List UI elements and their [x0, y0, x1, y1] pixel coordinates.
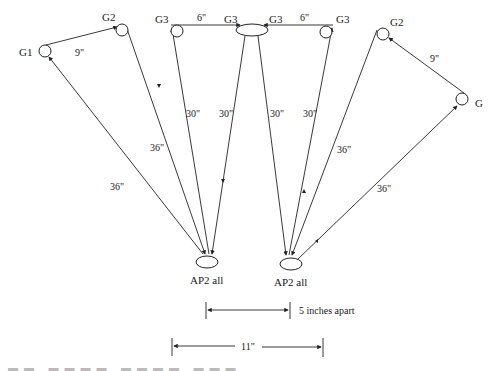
edge-center-ap2-right — [258, 36, 286, 255]
edge-ap2-left-g3-far-left — [172, 28, 209, 254]
edge-g2-left-ap2-left — [126, 26, 205, 254]
label-edge-center-ap2-left: 30" — [219, 108, 233, 119]
node-g2-right — [377, 28, 389, 40]
label-g3-far-right: G3 — [336, 13, 350, 25]
node-g2-left — [116, 24, 128, 36]
node-g3-center — [236, 24, 268, 36]
label-ap-spacing: 5 inches apart — [299, 305, 355, 316]
node-g-right — [456, 93, 468, 105]
label-edge-g1-g2-left: 9" — [75, 47, 84, 58]
label-edge-center-ap2-right: 30" — [270, 108, 284, 119]
label-edge-g2-right-g-right: 9" — [430, 53, 439, 64]
label-edge-g3-top-left: 6" — [197, 12, 206, 23]
label-edge-g2-left-ap2-left: 36" — [150, 142, 164, 153]
label-ap2-left: AP2 all — [190, 274, 223, 286]
edge-center-ap2-left — [212, 36, 245, 254]
node-g3-far-right — [320, 26, 332, 38]
label-g3-center-left: G3 — [224, 13, 238, 25]
arrowhead-mid — [221, 179, 225, 183]
label-edge-g3-far-left-ap2-left: 30" — [186, 108, 200, 119]
node-g1 — [39, 45, 51, 57]
edge-g1-g2-left — [46, 27, 117, 45]
label-g2-left: G2 — [102, 11, 115, 23]
label-total-width: 11" — [241, 341, 255, 352]
node-ap2-left — [196, 256, 218, 268]
label-g1: G1 — [19, 46, 32, 58]
label-ap2-right: AP2 all — [274, 276, 307, 288]
label-g3-far-left: G3 — [155, 13, 169, 25]
node-ap2-right — [280, 258, 302, 270]
edge-ap2-left-g1 — [49, 57, 203, 254]
label-edge-g-right-ap2-right: 36" — [377, 183, 391, 194]
label-edge-g3-far-right-ap2-right: 30" — [303, 108, 317, 119]
label-g-right: G — [475, 97, 483, 109]
label-edge-g2-right-ap2-right: 36" — [337, 144, 351, 155]
edge-g2-right-ap2-right — [292, 30, 377, 255]
arrowhead-mid — [157, 84, 161, 88]
arrowhead-mid — [302, 189, 306, 193]
distance-diagram: G1 G2 G3 G3 G3 G3 G2 G AP2 all AP2 all 9… — [0, 0, 496, 371]
edge-ap2-right-g3-far-right — [289, 28, 332, 255]
label-edge-g3-top-right: 6" — [300, 12, 309, 23]
dimension-ap-spacing — [206, 302, 290, 319]
label-edge-g1-ap2-left: 36" — [110, 181, 124, 192]
figure-caption-truncated: ▬▬ ▬▬▬▬ ▬▬▬▬ ▬▬▬ — [8, 362, 242, 371]
edge-g-right-g2-right — [389, 38, 464, 93]
node-g3-far-left — [171, 25, 183, 37]
label-g3-center-right: G3 — [269, 13, 283, 25]
label-g2-right: G2 — [390, 16, 403, 28]
